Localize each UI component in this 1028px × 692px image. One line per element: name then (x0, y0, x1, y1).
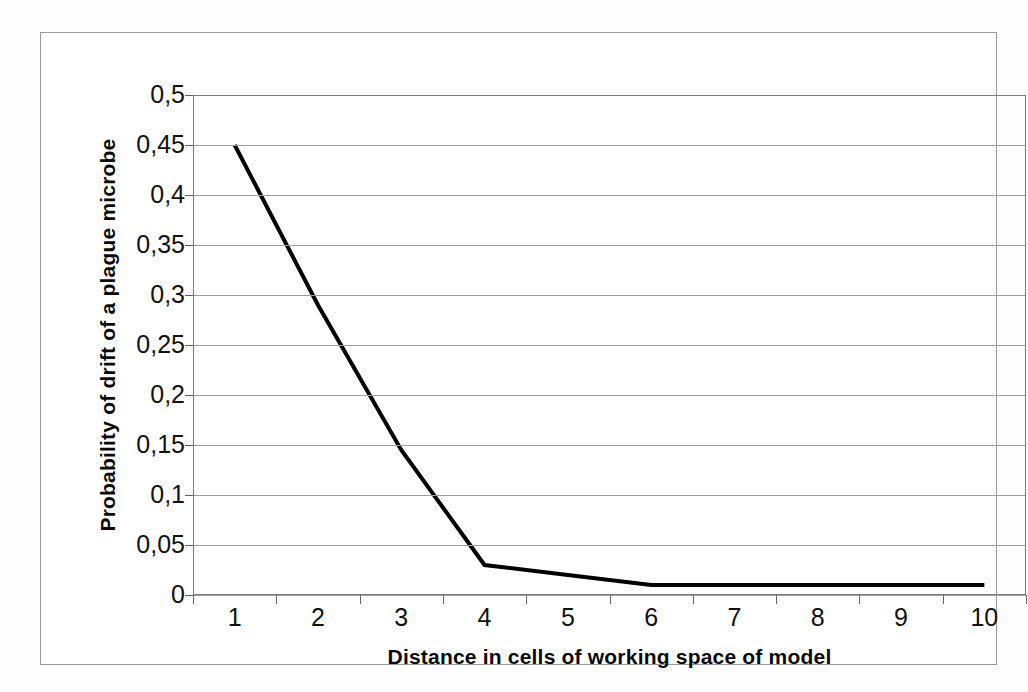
gridline (193, 95, 1026, 96)
x-axis-tick-label: 6 (610, 605, 693, 630)
x-axis-tick-mark (526, 595, 527, 604)
chart-frame: 0,50,450,40,350,30,250,20,150,10,050 123… (40, 32, 997, 665)
x-axis-tick-label: 8 (776, 605, 859, 630)
y-axis-tick-label: 0 (93, 582, 185, 607)
plot-area (193, 95, 1026, 595)
gridline (193, 195, 1026, 196)
x-axis-tick-label: 9 (859, 605, 942, 630)
x-axis-tick-mark (859, 595, 860, 604)
x-axis-tick-mark (693, 595, 694, 604)
x-axis-tick-mark (776, 595, 777, 604)
x-axis-tick-mark (360, 595, 361, 604)
x-axis-tick-label: 10 (943, 605, 1026, 630)
probability-line (235, 145, 985, 585)
x-axis-tick-mark (1026, 595, 1027, 604)
x-axis-tick-labels: 12345678910 (193, 605, 1026, 641)
y-axis-title: Probability of drift of a plague microbe (96, 85, 120, 585)
gridline (193, 345, 1026, 346)
x-axis-tick-mark (193, 595, 194, 604)
x-axis-tick-label: 4 (443, 605, 526, 630)
gridline (193, 445, 1026, 446)
x-axis-tick-label: 5 (526, 605, 609, 630)
x-axis-tick-label: 7 (693, 605, 776, 630)
x-axis-tick-mark (443, 595, 444, 604)
gridline (193, 295, 1026, 296)
gridline (193, 245, 1026, 246)
page-background: 0,50,450,40,350,30,250,20,150,10,050 123… (0, 0, 1028, 692)
x-axis-title: Distance in cells of working space of mo… (193, 645, 1026, 669)
x-axis-tick-label: 1 (193, 605, 276, 630)
gridline (193, 545, 1026, 546)
x-axis-tick-label: 3 (360, 605, 443, 630)
x-axis-tick-mark (276, 595, 277, 604)
gridline (193, 145, 1026, 146)
x-axis-tick-mark (610, 595, 611, 604)
x-axis-tick-mark (943, 595, 944, 604)
x-axis-tick-label: 2 (276, 605, 359, 630)
gridline (193, 395, 1026, 396)
gridline (193, 495, 1026, 496)
